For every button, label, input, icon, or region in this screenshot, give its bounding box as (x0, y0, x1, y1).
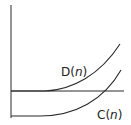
curve-d-label: D(n) (61, 65, 87, 79)
cost-curves-diagram: D(n) C(n) (0, 0, 131, 125)
curve-c-label: C(n) (97, 108, 122, 122)
